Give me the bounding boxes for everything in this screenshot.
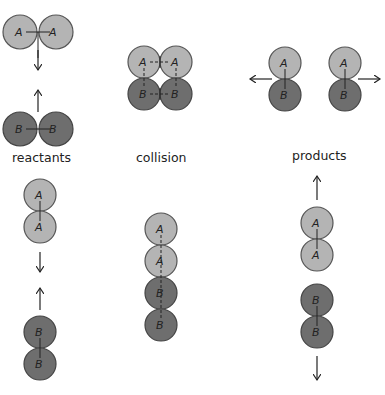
atom-label: B bbox=[49, 123, 57, 136]
atom-label: B bbox=[171, 88, 179, 101]
molecule-b2-top-left: B B bbox=[3, 112, 73, 146]
diagram-canvas: A A B B reactants A A B B collision bbox=[0, 0, 385, 395]
products-horizontal-group: A B A B products bbox=[250, 47, 380, 163]
atom-label: A bbox=[14, 26, 23, 39]
collision-vertical-group: A A B B bbox=[145, 213, 177, 341]
atom-label: A bbox=[155, 223, 164, 236]
label-products: products bbox=[292, 148, 347, 163]
reactants-horizontal-group: A A B B reactants bbox=[3, 15, 73, 165]
atom-label: A bbox=[155, 255, 164, 268]
atom-label: B bbox=[35, 358, 43, 371]
atom-label: B bbox=[139, 88, 147, 101]
label-reactants: reactants bbox=[12, 150, 71, 165]
atom-label: B bbox=[156, 287, 164, 300]
atom-label: B bbox=[35, 326, 43, 339]
products-vertical-group: A A B B bbox=[301, 176, 333, 380]
atom-label: B bbox=[15, 123, 23, 136]
collision-square-group: A A B B collision bbox=[128, 46, 192, 165]
atom-label: A bbox=[339, 57, 348, 70]
atom-label: A bbox=[34, 189, 43, 202]
atom-label: A bbox=[48, 26, 57, 39]
atom-label: A bbox=[138, 56, 147, 69]
atom-label: B bbox=[156, 319, 164, 332]
atom-label: B bbox=[312, 326, 320, 339]
atom-label: A bbox=[311, 249, 320, 262]
atom-label: A bbox=[34, 221, 43, 234]
atom-label: A bbox=[311, 217, 320, 230]
atom-label: A bbox=[170, 56, 179, 69]
atom-label: B bbox=[312, 294, 320, 307]
atom-label: A bbox=[279, 57, 288, 70]
atom-label: B bbox=[340, 89, 348, 102]
atom-label: B bbox=[280, 89, 288, 102]
label-collision: collision bbox=[136, 150, 187, 165]
reactants-vertical-group: A A B B bbox=[24, 179, 56, 380]
